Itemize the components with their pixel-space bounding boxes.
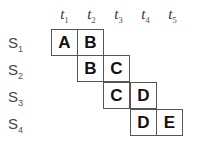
cell-s1-t1: A xyxy=(51,29,78,56)
row-label-s3: S3 xyxy=(8,88,23,108)
cell-s2-t3: C xyxy=(103,55,130,82)
row-label-s2: S2 xyxy=(8,61,23,81)
cell-s4-t5: E xyxy=(156,109,183,136)
column-label-t4: t4 xyxy=(132,6,159,25)
cell-s3-t3: C xyxy=(103,82,130,109)
cell-s3-t4: D xyxy=(130,82,157,109)
row-label-s1: S1 xyxy=(8,34,23,54)
column-label-t2: t2 xyxy=(78,6,105,25)
row-label-s4: S4 xyxy=(8,115,23,135)
column-label-t5: t5 xyxy=(159,6,186,25)
cell-s4-t4: D xyxy=(130,109,157,136)
cell-s1-t2: B xyxy=(77,29,104,56)
column-label-t3: t3 xyxy=(105,6,132,25)
column-label-t1: t1 xyxy=(51,6,78,25)
cell-s2-t2: B xyxy=(77,55,104,82)
